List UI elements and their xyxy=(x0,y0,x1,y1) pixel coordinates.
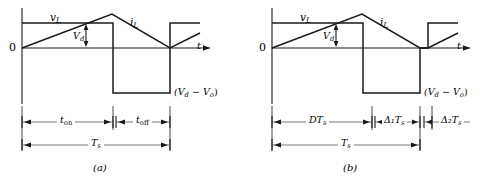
panel-b-dts-arrow-left xyxy=(274,119,281,124)
panel-a-toff-sub: off xyxy=(140,119,149,127)
panel-a-vd-arrowhead-down xyxy=(84,41,89,47)
panel-a-vd-label: Vd xyxy=(73,31,84,42)
panel-a-x-axis-arrowhead xyxy=(203,45,210,51)
panel-a-ton-label: ton xyxy=(57,115,75,126)
panel-a-il-label-sub: L xyxy=(133,21,138,30)
panel-a-ts-sub: s xyxy=(97,142,101,150)
panel-b-dts-base: DT xyxy=(309,114,323,125)
figure-container: 0 vL iL Vd (Vd − Vo) t ton toff Ts (a) 0… xyxy=(0,0,500,182)
panel-b-caption: (b) xyxy=(343,163,357,173)
panel-b-level-open: (V xyxy=(424,86,435,97)
panel-b-d2ts-arrow-left xyxy=(426,119,432,124)
panel-b-vl-label-sub: L xyxy=(306,16,311,25)
panel-b-vd-label-sub: d xyxy=(330,35,334,43)
panel-b-level-label: (Vd − Vo) xyxy=(424,87,468,98)
panel-a-toff-label: toff xyxy=(133,115,152,126)
panel-a-origin-label: 0 xyxy=(9,42,16,53)
panel-a-il-label: iL xyxy=(130,17,138,29)
panel-b-dts-sub: s xyxy=(323,119,327,127)
panel-b-dts-label: DTs xyxy=(306,115,329,126)
panel-a-level-close: ) xyxy=(214,86,218,97)
panel-b-vd-label-base: V xyxy=(323,30,330,41)
panel-a-vd-label-sub: d xyxy=(80,35,84,43)
panel-a-toff-arrow-right xyxy=(161,119,168,124)
panel-a-toff-arrow-left xyxy=(118,119,125,124)
panel-a-ts-label: Ts xyxy=(88,138,104,149)
panel-a-level-open: (V xyxy=(174,86,185,97)
panel-a-x-axis-label: t xyxy=(197,41,201,51)
panel-a-level-mid: − V xyxy=(189,86,210,97)
panel-b-vl-waveform xyxy=(272,23,458,93)
panel-a-il-waveform xyxy=(22,14,200,48)
panel-b-level-mid: − V xyxy=(439,86,460,97)
panel-a-vl-label: vL xyxy=(50,12,61,24)
panel-a-caption: (a) xyxy=(93,163,107,173)
panel-a-ton-arrow-left xyxy=(24,119,31,124)
panel-b-x-axis-label: t xyxy=(457,41,461,51)
panel-b-ts-sub: s xyxy=(347,142,351,150)
panel-b-d1ts-label: Δ₁Ts xyxy=(382,115,407,126)
panel-b-x-axis-arrowhead xyxy=(463,45,470,51)
panel-a-ts-arrow-left xyxy=(24,142,31,147)
panel-a-level-label: (Vd − Vo) xyxy=(174,87,218,98)
panel-b-d2ts-base: Δ₂T xyxy=(441,114,458,125)
panel-b-il-label-sub: L xyxy=(383,21,388,30)
panel-b-vd-label: Vd xyxy=(323,31,334,42)
panel-b-origin-label: 0 xyxy=(259,42,266,53)
panel-b-il-label: iL xyxy=(380,17,388,29)
panel-a-ts-arrow-right xyxy=(161,142,168,147)
panel-b-d2ts-sub: s xyxy=(458,119,462,127)
panel-b-vl-label: vL xyxy=(300,12,311,24)
panel-b-ts-label: Ts xyxy=(338,138,354,149)
panel-b-vd-arrowhead-down xyxy=(334,41,339,47)
panel-b-level-close: ) xyxy=(464,86,468,97)
panel-b-d1ts-arrow-right xyxy=(412,119,418,124)
panel-a-ton-sub: on xyxy=(64,119,73,127)
panel-b-d1ts-sub: s xyxy=(401,119,405,127)
panel-b-dts-arrow-right xyxy=(363,119,370,124)
panel-a-vl-label-sub: L xyxy=(56,16,61,25)
panel-b-d2ts-label: Δ₂Ts xyxy=(439,115,464,126)
panel-b-ts-arrow-left xyxy=(274,142,281,147)
panel-b-d1ts-base: Δ₁T xyxy=(384,114,401,125)
panel-a-vd-label-base: V xyxy=(73,30,80,41)
panel-b-ts-arrow-right xyxy=(411,142,418,147)
panel-a-vl-waveform xyxy=(22,23,200,93)
panel-a-ton-arrow-right xyxy=(104,119,111,124)
